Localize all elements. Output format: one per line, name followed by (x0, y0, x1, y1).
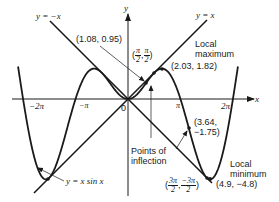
annotation-local-max-label: Local maximum (195, 39, 234, 59)
annotation-half-pi: (π2,π2) (132, 47, 153, 64)
point-inflection-2 (187, 126, 191, 130)
label-y-equals-neg-x: y = −x (36, 11, 61, 21)
leader-function-label (38, 168, 64, 181)
annotation-point-1: (1.08, 0.95) (76, 34, 122, 44)
annotation-local-min-point: (4.9, −4.8) (216, 179, 257, 189)
leader-inflection-right (176, 131, 187, 149)
tick-pi: π (176, 101, 180, 111)
point-inflection-1 (144, 81, 148, 85)
annotation-inflection-label: Points of inflection (131, 146, 167, 166)
annotation-3half-pi: (3π2,−3π2) (165, 177, 199, 194)
point-3half-pi (205, 176, 209, 180)
point-half-pi (152, 71, 156, 75)
annotation-inflection-point: (3.64, −1.75) (194, 117, 220, 137)
label-function: y = x sin x (66, 176, 104, 186)
point-local-max (160, 67, 164, 71)
label-origin: 0 (121, 103, 126, 113)
point-neg-tangent (46, 177, 50, 181)
tick-neg-two-pi: −2π (29, 101, 44, 111)
label-y-equals-x: y = x (196, 10, 215, 20)
annotation-local-max-point: (2.03, 1.82) (171, 61, 217, 71)
label-x-axis: x (255, 94, 259, 104)
annotation-local-min-label: Local minimum (230, 159, 267, 179)
tick-neg-pi: −π (79, 101, 88, 111)
label-y-axis: y (124, 3, 128, 13)
graph-figure: y = −x y = x y x 0 −2π −π π 2π (1.08, 0.… (0, 0, 279, 202)
tick-two-pi: 2π (221, 101, 230, 111)
